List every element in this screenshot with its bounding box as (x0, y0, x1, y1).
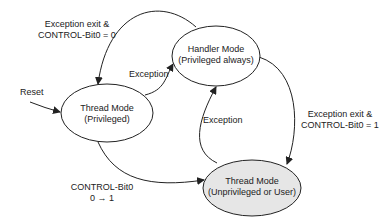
node-label-line2: (Unprivileged or User) (208, 187, 296, 197)
edge-label-exception-2: Exception (203, 115, 243, 125)
node-label-line1: Thread Mode (80, 103, 134, 113)
edge-label-reset: Reset (20, 87, 44, 97)
node-thread-mode-privileged: Thread Mode (Privileged) (61, 84, 153, 142)
node-label-line2: (Privileged) (84, 114, 130, 124)
node-label-line1: Thread Mode (225, 176, 279, 186)
edge-label-control-bit0-line2: 0 → 1 (90, 193, 114, 203)
edge-thread-privileged-to-thread-unprivileged (98, 142, 204, 183)
edge-label-exit-bit0-0-line2: CONTROL-Bit0 = 0 (38, 30, 116, 40)
node-label-line2: (Privileged always) (178, 55, 254, 65)
edge-label-exit-bit0-0-line1: Exception exit & (45, 19, 110, 29)
edge-thread-unprivileged-to-handler (200, 87, 217, 163)
edge-label-control-bit0-line1: CONTROL-Bit0 (71, 182, 134, 192)
node-label-line1: Handler Mode (188, 44, 245, 54)
node-thread-mode-unprivileged: Thread Mode (Unprivileged or User) (203, 160, 301, 216)
edge-label-exit-bit0-1-line2: CONTROL-Bit0 = 1 (301, 120, 379, 130)
state-diagram: Thread Mode (Privileged) Handler Mode (P… (0, 0, 389, 220)
edge-label-exception-1: Exception (129, 69, 169, 79)
node-handler-mode: Handler Mode (Privileged always) (172, 26, 260, 86)
edge-reset-to-thread-privileged (30, 102, 60, 112)
edge-label-exit-bit0-1-line1: Exception exit & (308, 109, 373, 119)
edge-handler-to-thread-unprivileged (259, 57, 295, 164)
